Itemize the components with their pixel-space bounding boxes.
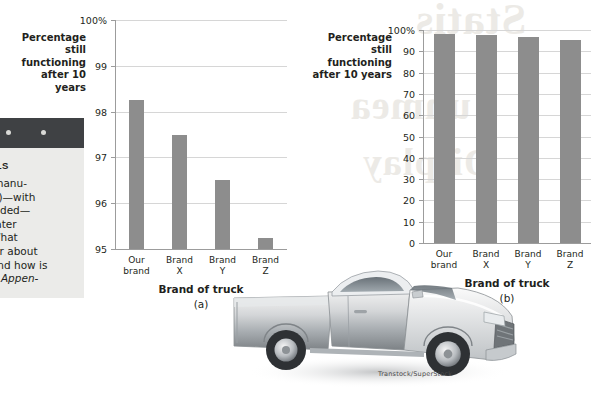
y-tick-label: 40 xyxy=(379,152,415,163)
chart-a-y-axis xyxy=(115,20,116,249)
y-tick-mark xyxy=(419,115,424,116)
y-tick-label: 50 xyxy=(379,131,415,142)
bar xyxy=(129,100,144,249)
photo-credit: Transtock/SuperStock xyxy=(378,370,452,378)
y-tick-mark xyxy=(419,222,424,223)
y-tick-mark xyxy=(419,73,424,74)
chart-b-plot-area xyxy=(423,30,591,243)
x-tick-label-line: X xyxy=(158,266,201,277)
y-tick-label: 0 xyxy=(379,238,415,249)
y-tick-mark xyxy=(111,157,116,158)
x-tick-label: BrandX xyxy=(158,255,201,277)
y-tick-mark xyxy=(111,66,116,67)
chart-a-plot-area xyxy=(115,20,287,249)
y-tick-label: 97 xyxy=(71,152,107,163)
y-tick-mark xyxy=(419,158,424,159)
chart-b-x-axis xyxy=(423,243,591,244)
bar xyxy=(434,34,455,243)
y-tick-label: 100% xyxy=(379,25,415,36)
y-tick-mark xyxy=(419,200,424,201)
y-axis-label-line: Percentage xyxy=(8,32,86,44)
y-tick-label: 60 xyxy=(379,110,415,121)
y-tick-label: 99 xyxy=(71,60,107,71)
x-tick-label-line: Brand xyxy=(158,255,201,266)
truck-photo xyxy=(228,250,520,390)
y-tick-label: 20 xyxy=(379,195,415,206)
y-tick-label: 95 xyxy=(71,244,107,255)
y-axis-label-line: after 10 years xyxy=(8,69,86,94)
bar xyxy=(476,35,497,243)
y-tick-mark xyxy=(111,249,116,250)
x-tick-label-line: Brand xyxy=(549,249,591,260)
y-tick-label: 90 xyxy=(379,46,415,57)
y-tick-mark xyxy=(111,112,116,113)
bar xyxy=(215,180,230,249)
x-tick-label: Ourbrand xyxy=(115,255,158,277)
x-tick-label: BrandZ xyxy=(549,249,591,271)
y-tick-label: 96 xyxy=(71,198,107,209)
x-tick-label-line: brand xyxy=(115,266,158,277)
bar xyxy=(258,238,273,249)
y-tick-mark xyxy=(419,137,424,138)
x-tick-label-line: Our xyxy=(115,255,158,266)
y-tick-label: 98 xyxy=(71,106,107,117)
y-tick-mark xyxy=(419,51,424,52)
gridline xyxy=(424,30,591,31)
y-tick-label: 70 xyxy=(379,88,415,99)
y-tick-mark xyxy=(111,203,116,204)
y-tick-label: 10 xyxy=(379,216,415,227)
y-tick-label: 80 xyxy=(379,67,415,78)
y-tick-mark xyxy=(419,179,424,180)
y-tick-label: 30 xyxy=(379,174,415,185)
y-tick-mark xyxy=(419,243,424,244)
gridline xyxy=(116,20,287,21)
x-tick-label-line: Z xyxy=(549,260,591,271)
bar xyxy=(560,40,581,243)
gridline xyxy=(116,66,287,67)
y-tick-mark xyxy=(419,94,424,95)
bar xyxy=(172,135,187,250)
bar xyxy=(518,37,539,243)
y-tick-mark xyxy=(111,20,116,21)
textbook-page: Statis unmea Display BELS ck manu- h (a)… xyxy=(0,0,605,402)
y-tick-mark xyxy=(419,30,424,31)
y-tick-label: 100% xyxy=(71,15,107,26)
